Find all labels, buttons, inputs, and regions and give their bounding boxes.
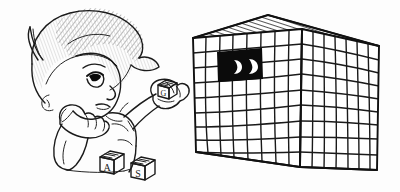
illustration-canvas: G A S (0, 0, 400, 192)
cube-face-panel (217, 48, 263, 82)
ground-block-right-letter: S (135, 168, 141, 179)
held-block-letter: G (161, 89, 167, 98)
ground-block-left-letter: A (103, 162, 111, 173)
drawing-svg: G A S (0, 0, 400, 192)
giant-cube (193, 15, 379, 170)
cube-side-face (300, 29, 379, 170)
